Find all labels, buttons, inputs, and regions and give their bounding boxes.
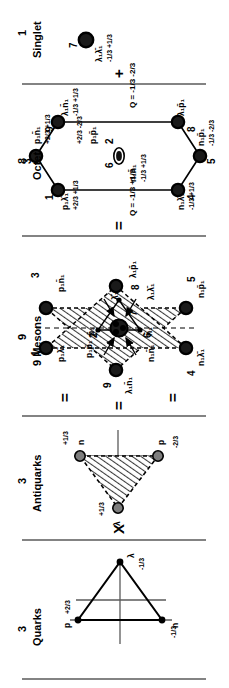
header-antiquarks-num: 3 — [16, 478, 28, 484]
meson-label-5: n₁p̄₁ — [196, 281, 206, 298]
figure-canvas: 3 Quarks 3 Antiquarks 9 9 Mesons 8 Octet… — [0, 0, 229, 688]
octet-label-9: λ₁n̄₁ — [60, 99, 70, 116]
singlet-charge: -1/3 +1/3 — [106, 34, 113, 62]
singlet-index: 7 — [68, 42, 79, 48]
octet-center-index-2: 2 — [104, 138, 115, 144]
octet-label-1: p₁λ̄₁ — [60, 193, 70, 210]
meson-index-3: 3 — [30, 272, 41, 278]
meson-index-9: 9 — [102, 382, 113, 388]
quark-charge-p: +2/3 — [64, 600, 71, 614]
operator-plus: + — [110, 69, 127, 78]
octet-label-5: n₁p̄₁ — [196, 129, 206, 146]
header-quarks-name: Quarks — [31, 608, 43, 646]
antiquark-charge-nbar: +1/3 — [62, 431, 69, 445]
meson-inner-label-lambdabar: λ̄₁ — [110, 292, 120, 300]
octet-q-left: Q = -1/3 +1/3 — [128, 169, 137, 216]
meson-inner-label-pbar: p̄₁ — [86, 327, 96, 336]
meson-label-8: λ₁p̄₁ — [128, 261, 138, 278]
operator-equals-3: = — [56, 393, 73, 402]
antiquark-label-pbar: p — [156, 440, 166, 445]
header-octet-name: Octet — [31, 152, 43, 180]
octet-center-label-2: p₁p̄₁ — [88, 127, 98, 144]
quark-label-lambda: λ — [126, 553, 136, 558]
header-singlet-num: 1 — [16, 30, 28, 36]
quark-charge-lambda: -1/3 — [138, 558, 145, 570]
meson-center-label-6: n₁n̄₁ — [146, 345, 156, 362]
octet-center-charge-6: -1/3 +1/3 — [140, 154, 147, 182]
antiquark-label-nbar: n — [76, 440, 86, 445]
octet-label-4: n₁λ̄₁ — [176, 193, 186, 210]
octet-center-index-6: 6 — [104, 162, 115, 168]
meson-label-9: λ₁n̄₁ — [124, 377, 134, 394]
operator-equals-2: = — [110, 221, 127, 230]
meson-center-label-7: λ₁λ̄₁ — [146, 284, 156, 301]
meson-label-3: p₁n̄₁ — [56, 275, 66, 292]
header-singlet-name: Singlet — [31, 21, 43, 58]
header-antiquarks-name: Antiquarks — [31, 455, 43, 512]
antiquark-charge-pbar: -2/3 — [172, 436, 179, 448]
meson-center-index-7: 7 — [128, 310, 139, 316]
quark-label-p: p — [62, 623, 72, 628]
meson-index-4: 4 — [186, 370, 197, 376]
octet-charge-5: -1/3 -2/3 — [208, 120, 215, 146]
meson-index-1: 1 — [30, 350, 41, 356]
octet-center-charge-2: +2/3 -2/3 — [76, 116, 83, 144]
singlet-label: λ₁λ̄₁ — [94, 46, 104, 63]
meson-label-1: p₁λ̄₁ — [56, 345, 66, 362]
octet-index-9: 9 — [44, 126, 55, 132]
antiquark-charge-lambdabar: +1/3 — [98, 502, 105, 516]
octet-label-8: λ₁p̄₁ — [176, 99, 186, 116]
meson-index-8: 8 — [130, 284, 141, 290]
octet-index-1: 1 — [44, 194, 55, 200]
header-mesons-name: 9 Mesons — [31, 316, 43, 366]
operator-equals-4: = — [164, 393, 181, 402]
octet-q-right: Q = -1/3 -2/3 — [128, 63, 137, 108]
octet-label-3: p₁n̄₁ — [32, 127, 42, 144]
operator-equals-1: = — [110, 401, 127, 410]
antiquark-label-lambdabar: λ — [112, 521, 122, 526]
header-quarks-num: 3 — [16, 626, 28, 632]
quark-charge-n: -1/3 — [170, 626, 177, 638]
octet-index-5: 5 — [206, 158, 217, 164]
meson-label-4: n₁λ̄₁ — [196, 349, 206, 366]
figure-text-layer: 3 Quarks 3 Antiquarks 9 9 Mesons 8 Octet… — [0, 0, 229, 688]
octet-charge-9: -1/3 +1/3 — [72, 88, 79, 116]
header-mesons-num: 9 — [16, 334, 28, 340]
meson-center-label-2: p₁p̄₁ — [84, 341, 94, 358]
octet-index-3: 3 — [22, 158, 33, 164]
octet-charge-4: -1/3 +1/3 — [188, 182, 195, 210]
meson-inner-label-nbar: n̄₁ — [144, 327, 154, 336]
octet-charge-1: +2/3 +1/3 — [72, 180, 79, 210]
